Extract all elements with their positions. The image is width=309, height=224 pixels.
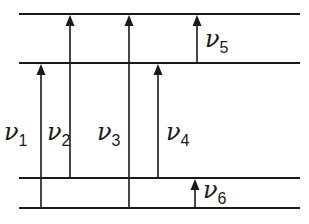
arrowhead-icon [125, 15, 134, 26]
arrowhead-icon [154, 64, 163, 75]
energy-level-diagram: ν1ν2ν3ν4ν5ν6 [0, 0, 309, 224]
label-nu4: ν4 [166, 118, 190, 149]
label-nu3: ν3 [97, 118, 121, 149]
transition-arrows [37, 15, 202, 208]
arrowhead-icon [37, 64, 46, 75]
arrowhead-icon [193, 15, 202, 26]
transition-arrow-nu6 [191, 179, 200, 208]
transition-arrow-nu2 [66, 15, 75, 178]
label-nu2: ν2 [47, 118, 71, 149]
label-nu5: ν5 [205, 25, 229, 56]
transition-arrow-nu1 [37, 64, 46, 208]
arrowhead-icon [66, 15, 75, 26]
transition-arrow-nu4 [154, 64, 163, 178]
energy-levels [19, 14, 300, 208]
arrowhead-icon [191, 179, 200, 190]
label-nu6: ν6 [203, 176, 227, 207]
transition-arrow-nu3 [125, 15, 134, 208]
label-nu1: ν1 [4, 118, 28, 149]
transition-arrow-nu5 [193, 15, 202, 63]
